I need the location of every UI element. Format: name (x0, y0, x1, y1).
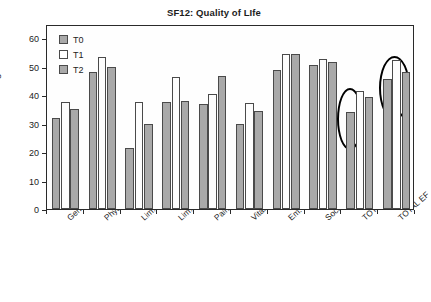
bar-t2-1 (107, 67, 116, 209)
legend-label-t1: T1 (73, 50, 84, 60)
bar-t1-6 (282, 54, 291, 209)
bar-t0-6 (273, 70, 282, 209)
bar-t2-0 (70, 109, 79, 209)
bar-t1-0 (61, 102, 70, 209)
bar-t2-4 (218, 76, 227, 209)
bar-t1-4 (208, 94, 217, 209)
x-tick-mark (46, 210, 47, 214)
y-tick-label: 40 (17, 91, 39, 101)
bar-t0-2 (125, 148, 134, 209)
bar-t1-3 (172, 77, 181, 209)
bar-t2-7 (328, 62, 337, 209)
bar-t0-7 (309, 65, 318, 209)
bar-t0-5 (236, 124, 245, 209)
bar-t0-8 (346, 112, 355, 209)
y-tick-label: 10 (17, 177, 39, 187)
plot-area: T0 T1 T2 (46, 25, 414, 210)
y-tick-label: 30 (17, 120, 39, 130)
legend-label-t0: T0 (73, 35, 84, 45)
bar-t0-3 (162, 102, 171, 209)
y-tick-label: 20 (17, 148, 39, 158)
bar-t0-9 (383, 79, 392, 209)
bar-t2-3 (181, 101, 190, 209)
chart-title: SF12: Quality of LIfe (0, 7, 428, 18)
legend-swatch-icon-t1 (59, 50, 68, 59)
bar-t1-8 (356, 91, 365, 209)
legend-item-t0: T0 (59, 32, 105, 47)
legend-swatch-icon-t0 (59, 35, 68, 44)
bar-t2-5 (254, 111, 263, 209)
bar-t2-2 (144, 124, 153, 209)
legend-swatch-icon-t2 (59, 65, 68, 74)
bar-t1-1 (98, 57, 107, 209)
legend-label-t2: T2 (73, 65, 84, 75)
y-tick-label: 0 (17, 205, 39, 215)
bar-t1-5 (245, 103, 254, 209)
y-tick-label: 50 (17, 63, 39, 73)
bar-t2-9 (402, 72, 411, 209)
bar-t1-9 (392, 60, 401, 209)
bar-t2-6 (291, 54, 300, 209)
bar-t1-2 (135, 102, 144, 209)
bar-t0-1 (89, 72, 98, 209)
bar-t0-4 (199, 104, 208, 209)
bar-t0-0 (52, 118, 61, 209)
bar-t1-7 (319, 59, 328, 209)
y-axis-title: Percentage (0, 68, 1, 117)
y-tick-label: 60 (17, 34, 39, 44)
bar-t2-8 (365, 97, 374, 209)
